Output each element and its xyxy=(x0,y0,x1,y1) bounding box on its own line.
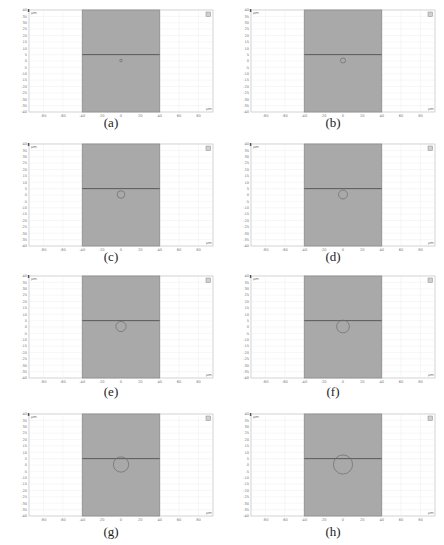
y-tick-label: -5 xyxy=(23,470,27,474)
y-tick-label: -25 xyxy=(21,91,27,95)
y-tick-label: -25 xyxy=(243,225,249,229)
y-tick-label: -20 xyxy=(243,351,250,355)
y-tick-label: 0 xyxy=(247,463,250,467)
panel-h: -80-60-40-200204060804035302520151050-5-… xyxy=(222,404,444,540)
axis-origin-marker xyxy=(250,275,252,278)
y-unit-label: μm xyxy=(253,145,259,149)
x-tick-label: 0 xyxy=(342,518,345,522)
y-tick-label: -30 xyxy=(243,502,250,506)
view-icon xyxy=(206,278,211,283)
y-tick-label: 40 xyxy=(244,8,249,12)
y-tick-label: 40 xyxy=(244,412,249,416)
y-tick-label: 20 xyxy=(244,300,249,304)
y-tick-label: 5 xyxy=(247,457,249,461)
axis-origin-marker xyxy=(250,413,252,416)
y-tick-label: 40 xyxy=(22,412,27,416)
y-tick-label: -5 xyxy=(245,470,249,474)
y-tick-label: 0 xyxy=(25,325,28,329)
y-unit-label: μm xyxy=(31,277,37,281)
y-tick-label: -30 xyxy=(21,502,28,506)
y-tick-label: -30 xyxy=(21,98,28,102)
y-tick-label: -10 xyxy=(243,206,250,210)
y-unit-label: μm xyxy=(31,145,37,149)
y-tick-label: 5 xyxy=(25,457,27,461)
y-tick-label: -15 xyxy=(21,482,27,486)
panel-g: -80-60-40-200204060804035302520151050-5-… xyxy=(0,404,222,540)
y-tick-label: -30 xyxy=(243,364,250,368)
y-tick-label: -35 xyxy=(243,508,249,512)
axis-origin-marker xyxy=(250,143,252,146)
caption-b: (b) xyxy=(222,115,444,131)
y-tick-label: 40 xyxy=(22,142,27,146)
x-unit-label: μm xyxy=(206,107,212,111)
y-tick-label: 20 xyxy=(22,34,27,38)
y-tick-label: -25 xyxy=(243,357,249,361)
y-tick-label: -15 xyxy=(21,344,27,348)
y-tick-label: 5 xyxy=(25,187,27,191)
y-tick-label: -40 xyxy=(21,110,28,114)
y-tick-label: -20 xyxy=(243,219,250,223)
y-tick-label: -30 xyxy=(21,232,28,236)
y-tick-label: -35 xyxy=(243,104,249,108)
y-tick-label: -35 xyxy=(21,508,27,512)
y-tick-label: 25 xyxy=(244,431,249,435)
y-tick-label: 35 xyxy=(22,149,27,153)
y-tick-label: 20 xyxy=(244,34,249,38)
y-tick-label: -40 xyxy=(21,244,28,248)
y-tick-label: -25 xyxy=(21,495,27,499)
caption-f: (f) xyxy=(222,384,444,400)
y-tick-label: 0 xyxy=(247,325,250,329)
y-tick-label: 25 xyxy=(22,161,27,165)
domain-rectangle xyxy=(82,276,159,378)
y-tick-label: -35 xyxy=(21,104,27,108)
y-tick-label: 35 xyxy=(244,149,249,153)
y-tick-label: -20 xyxy=(21,489,28,493)
y-tick-label: -35 xyxy=(243,370,249,374)
x-unit-label: μm xyxy=(428,373,434,377)
y-tick-label: 30 xyxy=(22,425,27,429)
y-tick-label: 35 xyxy=(244,419,249,423)
plot-h: -80-60-40-200204060804035302520151050-5-… xyxy=(222,404,444,526)
view-icon xyxy=(428,146,433,151)
caption-h: (h) xyxy=(222,524,444,540)
y-tick-label: -15 xyxy=(243,482,249,486)
y-tick-label: 15 xyxy=(244,306,249,310)
panel-c: -80-60-40-200204060804035302520151050-5-… xyxy=(0,134,222,270)
y-tick-label: -25 xyxy=(243,495,249,499)
y-unit-label: μm xyxy=(253,277,259,281)
domain-rectangle xyxy=(304,10,381,112)
x-tick-label: 20 xyxy=(138,518,143,522)
x-tick-label: 80 xyxy=(418,518,423,522)
caption-g: (g) xyxy=(0,524,222,540)
y-tick-label: 30 xyxy=(244,155,249,159)
y-tick-label: -10 xyxy=(21,476,28,480)
x-tick-label: -80 xyxy=(263,518,270,522)
y-tick-label: 35 xyxy=(244,15,249,19)
y-tick-label: -5 xyxy=(245,66,249,70)
y-tick-label: 30 xyxy=(22,155,27,159)
axis-origin-marker xyxy=(28,275,30,278)
panel-d: -80-60-40-200204060804035302520151050-5-… xyxy=(222,134,444,270)
y-tick-label: -5 xyxy=(23,200,27,204)
x-tick-label: -20 xyxy=(321,518,328,522)
x-tick-label: -60 xyxy=(282,518,289,522)
y-tick-label: -15 xyxy=(21,78,27,82)
x-tick-label: 40 xyxy=(379,518,384,522)
panel-f: -80-60-40-200204060804035302520151050-5-… xyxy=(222,266,444,402)
y-tick-label: 25 xyxy=(244,161,249,165)
x-tick-label: 60 xyxy=(399,518,404,522)
y-tick-label: -5 xyxy=(23,66,27,70)
axis-origin-marker xyxy=(28,413,30,416)
caption-e: (e) xyxy=(0,384,222,400)
y-tick-label: 0 xyxy=(247,193,250,197)
y-tick-label: 25 xyxy=(244,293,249,297)
y-unit-label: μm xyxy=(31,11,37,15)
y-tick-label: -10 xyxy=(243,338,250,342)
y-tick-label: 35 xyxy=(22,419,27,423)
y-tick-label: 10 xyxy=(22,313,27,317)
y-tick-label: 5 xyxy=(247,53,249,57)
y-tick-label: 10 xyxy=(22,47,27,51)
y-tick-label: -10 xyxy=(21,72,28,76)
panel-e: -80-60-40-200204060804035302520151050-5-… xyxy=(0,266,222,402)
plot-a: -80-60-40-200204060804035302520151050-5-… xyxy=(0,0,222,122)
